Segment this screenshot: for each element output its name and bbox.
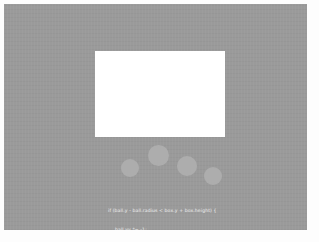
box-rectangle [95, 51, 225, 137]
code-line-2: ball.vy *= -1; [108, 227, 217, 230]
screenshot-root: if (ball.y - ball.radius < box.y + box.h… [0, 0, 319, 242]
ball-trail-3 [177, 156, 197, 176]
code-snippet-overlay: if (ball.y - ball.radius < box.y + box.h… [108, 196, 217, 230]
animation-canvas[interactable]: if (ball.y - ball.radius < box.y + box.h… [4, 4, 307, 230]
ball-trail-2 [148, 145, 169, 166]
ball-trail-1 [121, 159, 139, 177]
ball-trail-4 [204, 167, 222, 185]
code-line-1: if (ball.y - ball.radius < box.y + box.h… [108, 208, 217, 214]
